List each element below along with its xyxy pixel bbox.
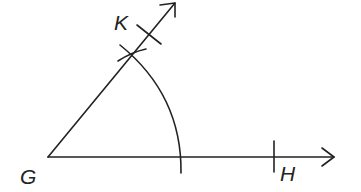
compass-arc <box>120 45 181 173</box>
label-k: K <box>114 12 128 33</box>
tick-k <box>137 25 161 44</box>
label-h: H <box>280 163 295 184</box>
label-g: G <box>20 166 36 187</box>
ray-gk <box>48 3 175 157</box>
geometry-diagram <box>0 0 361 192</box>
